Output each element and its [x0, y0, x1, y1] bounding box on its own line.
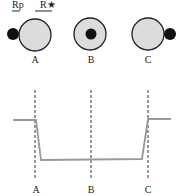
label-a: A — [31, 54, 39, 65]
rp-label: Rp — [12, 0, 24, 10]
rstar-label: R★ — [40, 0, 56, 10]
axis-label-a: A — [32, 184, 40, 195]
label-c: C — [145, 54, 152, 65]
transit-diagram: Rp R★ A B C A B C — [0, 0, 183, 196]
star-a — [19, 19, 51, 51]
axis-label-b: B — [88, 184, 95, 195]
planet-c — [164, 28, 176, 40]
planet-b — [86, 29, 97, 40]
stage-c: C — [132, 18, 176, 65]
stage-a: A — [7, 19, 51, 65]
label-b: B — [88, 54, 95, 65]
light-curve — [13, 119, 171, 160]
planet-a — [7, 28, 19, 40]
stage-b: B — [74, 18, 106, 65]
star-c — [132, 18, 164, 50]
axis-label-c: C — [145, 184, 152, 195]
